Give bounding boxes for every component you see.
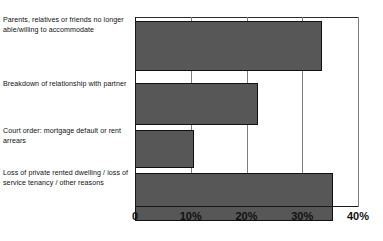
x-tick-label-3: 30% xyxy=(291,210,313,222)
category-axis-labels: Parents, relatives or friends no longer … xyxy=(0,0,130,205)
x-axis-line xyxy=(135,206,358,207)
gridline-40 xyxy=(358,17,359,207)
x-tick-label-0: 0 xyxy=(132,210,138,222)
category-label-3: Loss of private rented dwelling / loss o… xyxy=(3,169,129,188)
bar-1 xyxy=(135,83,258,125)
plot-area xyxy=(135,17,358,207)
x-tick-label-4: 40% xyxy=(347,210,369,222)
y-axis-line xyxy=(135,17,136,207)
category-label-2: Court order: mortgage default or rent ar… xyxy=(3,127,129,146)
x-tick-label-1: 10% xyxy=(180,210,202,222)
x-tick-label-2: 20% xyxy=(235,210,257,222)
category-label-1: Breakdown of relationship with partner xyxy=(3,80,129,90)
bar-chart: Parents, relatives or friends no longer … xyxy=(0,0,383,241)
bar-2 xyxy=(135,130,194,168)
x-axis-tick-labels: 0 10% 20% 30% 40% xyxy=(0,210,383,230)
category-label-0: Parents, relatives or friends no longer … xyxy=(3,16,129,35)
bar-0 xyxy=(135,21,322,71)
